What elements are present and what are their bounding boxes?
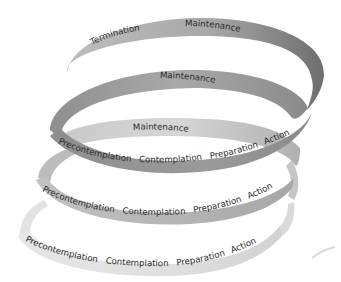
stages-of-change-spiral: Termination Maintenance Maintenance Main… <box>0 0 341 282</box>
ribbon-tail <box>312 247 335 258</box>
